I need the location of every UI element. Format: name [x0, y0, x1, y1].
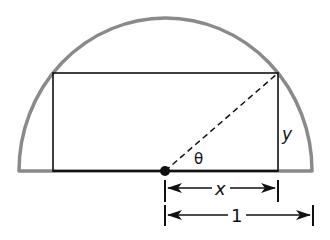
semicircle-rectangle-diagram: θ y x 1 — [0, 0, 330, 240]
semicircle-arc — [19, 18, 312, 171]
x-label: x — [214, 178, 226, 199]
radius-label: 1 — [231, 205, 242, 226]
theta-label: θ — [194, 150, 203, 168]
inscribed-rectangle — [53, 73, 278, 171]
y-label: y — [281, 124, 293, 144]
center-point — [160, 166, 170, 176]
dashed-radius — [165, 73, 278, 171]
